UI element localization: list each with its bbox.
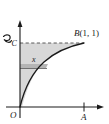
x-axis-arrow	[97, 105, 104, 110]
y-axis-label-c-group: C	[4, 35, 18, 48]
figure-canvas: C O A B(1, 1) x	[0, 0, 109, 124]
math-figure: C O A B(1, 1) x	[0, 0, 109, 124]
point-label-b-group: B(1, 1)	[74, 28, 99, 38]
x-axis-label-a: A	[80, 112, 87, 122]
svg-text:B(1, 1): B(1, 1)	[74, 28, 99, 38]
strip-variable-label: x	[31, 55, 36, 64]
origin-label: O	[10, 110, 17, 120]
curl-decoration-icon	[4, 35, 12, 42]
point-label-b-coords: (1, 1)	[80, 28, 100, 38]
shaded-region-light	[20, 43, 84, 107]
y-axis-arrow	[18, 20, 23, 27]
shaded-strip-dark	[20, 64, 48, 68]
y-axis-label-c: C	[12, 39, 18, 48]
